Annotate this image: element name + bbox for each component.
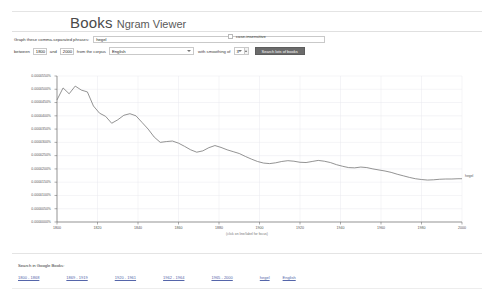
phrases-label: Graph these comma-separated phrases: xyxy=(14,37,89,42)
x-tick-label: 1980 xyxy=(410,226,434,230)
corpus-select[interactable]: English xyxy=(109,47,194,55)
x-tick-label: 2000 xyxy=(450,226,474,230)
y-tick-label: 0.0000400% xyxy=(15,114,51,118)
footer-divider xyxy=(12,253,482,254)
y-tick-label: 0.0000500% xyxy=(15,87,51,91)
chart-caption: (click on line/label for focus) xyxy=(0,232,494,236)
x-tick-label: 1820 xyxy=(86,226,110,230)
query-input[interactable]: hegel xyxy=(93,36,325,43)
y-tick-label: 0.0000450% xyxy=(15,100,51,104)
smoothing-select[interactable]: 3 xyxy=(234,47,245,55)
ngram-viewer-page: Books Ngram Viewer Graph these comma-sep… xyxy=(0,0,494,297)
y-tick-label: 0.0000200% xyxy=(15,167,51,171)
x-tick-label: 1920 xyxy=(288,226,312,230)
x-tick-label: 1880 xyxy=(207,226,231,230)
smoothing-stepper[interactable] xyxy=(245,47,249,55)
ngram-chart[interactable]: 0.0000550%0.0000500%0.0000450%0.0000400%… xyxy=(0,66,494,246)
footer-link-0[interactable]: 1800 - 1868 xyxy=(18,275,39,280)
footer-link-3[interactable]: 1962 - 1964 xyxy=(163,275,184,280)
y-tick-label: 0.0000250% xyxy=(15,153,51,157)
x-tick-label: 1860 xyxy=(167,226,191,230)
search-button[interactable]: Search lots of books xyxy=(255,47,305,55)
y-tick-label: 0.0000550% xyxy=(15,74,51,78)
x-tick-label: 1800 xyxy=(45,226,69,230)
y-tick-label: 0.0000350% xyxy=(15,127,51,131)
footer-link-5[interactable]: hegel xyxy=(260,275,270,280)
x-tick-label: 1960 xyxy=(369,226,393,230)
top-divider xyxy=(12,11,482,12)
footer-link-4[interactable]: 1965 - 2000 xyxy=(211,275,232,280)
chart-svg xyxy=(0,66,494,246)
year-start-input[interactable]: 1800 xyxy=(33,48,47,55)
and-label: and xyxy=(50,49,57,54)
corpus-label: from the corpus xyxy=(77,49,106,54)
query-form: Graph these comma-separated phrases: heg… xyxy=(14,34,480,56)
chart-gridlines xyxy=(57,76,462,222)
smoothing-label: with smoothing of xyxy=(198,49,231,54)
brand-logo[interactable]: Books Ngram Viewer xyxy=(70,14,186,31)
query-row: Graph these comma-separated phrases: heg… xyxy=(14,34,480,44)
year-end-input[interactable]: 2000 xyxy=(60,48,74,55)
y-tick-label: 0.0000100% xyxy=(15,193,51,197)
case-insensitive-checkbox[interactable] xyxy=(228,34,233,39)
case-insensitive-group[interactable]: case-insensitive xyxy=(228,34,266,39)
y-tick-label: 0.0000300% xyxy=(15,140,51,144)
case-insensitive-label: case-insensitive xyxy=(236,34,266,39)
brand-books-text: Books xyxy=(70,14,113,31)
options-row: between 1800 and 2000 from the corpus En… xyxy=(14,46,480,56)
brand-ngram-text: Ngram Viewer xyxy=(117,18,187,30)
x-tick-label: 1940 xyxy=(329,226,353,230)
y-tick-label: 0.0000000% xyxy=(15,220,51,224)
bottom-divider xyxy=(12,288,482,289)
footer-link-6[interactable]: English xyxy=(283,275,296,280)
footer-link-list: 1800 - 18681869 - 19191920 - 19611962 - … xyxy=(18,275,278,280)
chart-axes xyxy=(55,76,463,225)
footer-link-2[interactable]: 1920 - 1961 xyxy=(115,275,136,280)
series-label-hegel[interactable]: hegel xyxy=(465,174,473,178)
x-tick-label: 1840 xyxy=(126,226,150,230)
x-tick-label: 1900 xyxy=(248,226,272,230)
y-tick-label: 0.0000150% xyxy=(15,180,51,184)
header-divider xyxy=(12,31,482,32)
search-google-books-title: Search in Google Books: xyxy=(18,263,64,268)
y-tick-label: 0.0000050% xyxy=(15,207,51,211)
footer-link-1[interactable]: 1869 - 1919 xyxy=(66,275,87,280)
between-label: between xyxy=(14,49,30,54)
